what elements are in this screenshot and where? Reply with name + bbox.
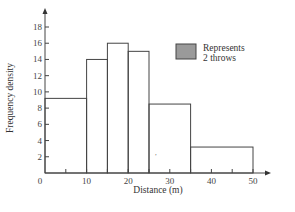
x-ticks: 01020304050 — [38, 169, 258, 186]
y-axis-arrow-icon — [43, 8, 48, 14]
histogram-bar — [149, 104, 191, 173]
x-tick-label: 50 — [249, 176, 259, 186]
x-tick-label: 10 — [82, 176, 92, 186]
y-tick-label: 8 — [38, 103, 43, 113]
y-tick-label: 14 — [33, 54, 43, 64]
y-tick-label: 4 — [38, 136, 43, 146]
histogram-chart: 24681012141618 01020304050 Distance (m) … — [0, 0, 295, 212]
y-tick-label: 10 — [33, 87, 43, 97]
y-tick-label: 6 — [38, 119, 43, 129]
x-tick-label: 0 — [38, 176, 43, 186]
y-ticks: 24681012141618 — [33, 22, 49, 162]
histogram-bar — [107, 43, 128, 173]
x-tick-label: 40 — [207, 176, 217, 186]
y-axis-label: Frequency density — [5, 63, 15, 133]
histogram-bar — [191, 147, 253, 173]
histogram-bar — [87, 59, 108, 173]
y-tick-label: 2 — [38, 152, 43, 162]
legend: Represents 2 throws — [176, 43, 245, 63]
y-tick-label: 18 — [33, 22, 43, 32]
stray-mark: , — [155, 149, 157, 157]
x-tick-label: 20 — [124, 176, 134, 186]
legend-line-2: 2 throws — [203, 53, 236, 63]
y-tick-label: 16 — [33, 38, 43, 48]
histogram-bar — [45, 98, 87, 173]
legend-line-1: Represents — [203, 43, 245, 53]
histogram-bar — [128, 51, 149, 173]
legend-swatch — [176, 44, 196, 59]
axes — [43, 8, 272, 176]
x-axis-label: Distance (m) — [133, 185, 182, 196]
y-tick-label: 12 — [33, 71, 42, 81]
x-axis-arrow-icon — [265, 171, 271, 176]
